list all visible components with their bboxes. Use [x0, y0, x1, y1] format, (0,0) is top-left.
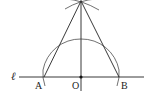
- line-l-label: ℓ: [11, 70, 16, 82]
- point-o-label: O: [72, 80, 79, 91]
- point-o-marker: [79, 75, 82, 78]
- construction-diagram: ℓ A O B: [0, 0, 167, 112]
- point-b-label: B: [121, 80, 128, 91]
- point-a-label: A: [35, 80, 43, 91]
